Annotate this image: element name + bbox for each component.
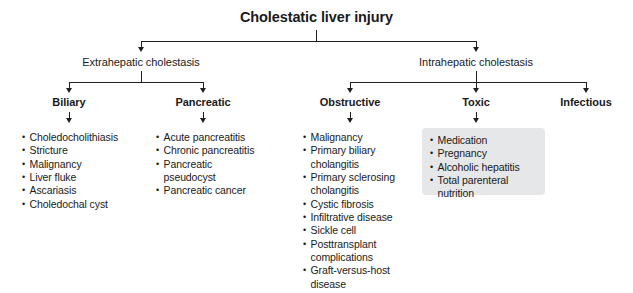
arrow-pancreatic: [200, 88, 206, 93]
arrow-toxic: [473, 88, 479, 93]
list-item: Pregnancy: [430, 147, 542, 160]
arrow-infectious: [583, 88, 589, 93]
list-obstructive: MalignancyPrimary biliarycholangitisPrim…: [303, 131, 415, 291]
list-item-line: Pancreatic cancer: [164, 184, 272, 197]
diagram-title: Cholestatic liver injury: [0, 10, 633, 25]
arrow-extrahepatic: [138, 47, 144, 52]
list-item: Alcoholic hepatitis: [430, 161, 542, 174]
list-item-line: Pancreatic: [164, 158, 272, 171]
list-item-line: Posttransplant: [311, 238, 416, 251]
list-item: Acute pancreatitis: [156, 131, 271, 144]
list-toxic: MedicationPregnancyAlcoholic hepatitisTo…: [430, 134, 542, 201]
list-item-line: disease: [311, 278, 416, 291]
list-item: Malignancy: [303, 131, 415, 144]
arrow-obstructive-list: [347, 118, 353, 123]
list-item: Choledocholithiasis: [22, 131, 142, 144]
list-item: Primary sclerosingcholangitis: [303, 171, 415, 198]
list-item-line: cholangitis: [311, 184, 416, 197]
arrow-pancreatic-list: [200, 118, 206, 123]
list-item-line: Chronic pancreatitis: [164, 144, 272, 157]
list-item: Sickle cell: [303, 224, 415, 237]
list-item: Chronic pancreatitis: [156, 144, 271, 157]
list-item: Posttransplantcomplications: [303, 238, 415, 265]
connector-title-stem: [316, 30, 317, 41]
node-infectious: Infectious: [517, 97, 633, 108]
list-item: Total parenteralnutrition: [430, 174, 542, 201]
list-item-line: Pregnancy: [438, 147, 543, 160]
connector-extrahepatic-bar: [69, 82, 203, 83]
list-item-line: cholangitis: [311, 158, 416, 171]
list-item: Stricture: [22, 144, 142, 157]
list-item-line: Malignancy: [30, 158, 143, 171]
list-item-line: Primary sclerosing: [311, 171, 416, 184]
node-biliary: Biliary: [0, 97, 138, 108]
list-item-line: Medication: [438, 134, 543, 147]
list-item-line: Cystic fibrosis: [311, 198, 416, 211]
list-item-line: Infiltrative disease: [311, 211, 416, 224]
list-item: Infiltrative disease: [303, 211, 415, 224]
arrow-biliary: [66, 88, 72, 93]
node-extrahepatic-cholestasis: Extrahepatic cholestasis: [41, 57, 241, 68]
arrow-intrahepatic: [473, 47, 479, 52]
node-intrahepatic-cholestasis: Intrahepatic cholestasis: [376, 57, 576, 68]
list-item: Pancreaticpseudocyst: [156, 158, 271, 185]
list-item: Liver fluke: [22, 171, 142, 184]
connector-extrahepatic-stem: [141, 71, 142, 82]
list-item-line: Primary biliary: [311, 144, 416, 157]
list-item: Choledochal cyst: [22, 198, 142, 211]
connector-title-bar: [141, 41, 477, 42]
list-item-line: Acute pancreatitis: [164, 131, 272, 144]
arrow-toxic-list: [473, 118, 479, 123]
list-item-line: Ascariasis: [30, 184, 143, 197]
list-item-line: Choledochal cyst: [30, 198, 143, 211]
node-pancreatic: Pancreatic: [134, 97, 272, 108]
list-item: Cystic fibrosis: [303, 198, 415, 211]
list-item-line: Malignancy: [311, 131, 416, 144]
list-item-line: Stricture: [30, 144, 143, 157]
list-item-line: Sickle cell: [311, 224, 416, 237]
list-pancreatic: Acute pancreatitisChronic pancreatitisPa…: [156, 131, 271, 198]
list-item-line: Alcoholic hepatitis: [438, 161, 543, 174]
node-obstructive: Obstructive: [281, 97, 419, 108]
list-item: Primary biliarycholangitis: [303, 144, 415, 171]
arrow-obstructive: [347, 88, 353, 93]
list-item-line: pseudocyst: [164, 171, 272, 184]
flowchart-canvas: Cholestatic liver injury Extrahepatic ch…: [0, 0, 633, 293]
list-item-line: Choledocholithiasis: [30, 131, 143, 144]
list-item-line: Graft-versus-host: [311, 264, 416, 277]
list-biliary: CholedocholithiasisStrictureMalignancyLi…: [22, 131, 142, 211]
list-item-line: complications: [311, 251, 416, 264]
list-item: Ascariasis: [22, 184, 142, 197]
list-item: Medication: [430, 134, 542, 147]
list-item: Graft-versus-hostdisease: [303, 264, 415, 291]
list-item: Malignancy: [22, 158, 142, 171]
arrow-biliary-list: [66, 118, 72, 123]
list-item-line: Liver fluke: [30, 171, 143, 184]
list-item-line: Total parenteral: [438, 174, 543, 187]
connector-intrahepatic-stem: [476, 71, 477, 82]
list-item-line: nutrition: [438, 187, 543, 200]
connector-intrahepatic-bar: [350, 82, 586, 83]
list-item: Pancreatic cancer: [156, 184, 271, 197]
